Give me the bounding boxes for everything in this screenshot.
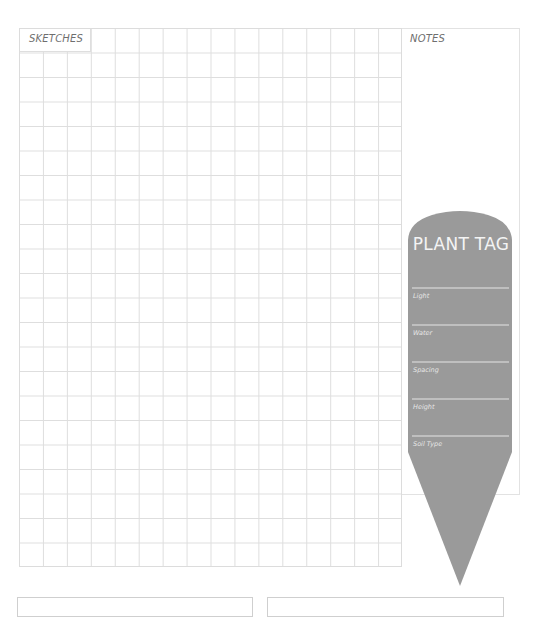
plant-tag-field-light: Light — [413, 292, 429, 300]
plant-tag-field-height: Height — [413, 403, 435, 411]
bottom-left-box — [17, 597, 253, 617]
plant-tag-field-water: Water — [413, 329, 432, 337]
bottom-right-box — [267, 597, 504, 617]
plant-tag-title: PLANT TAG — [409, 234, 513, 254]
notes-box — [402, 28, 520, 495]
sketches-heading: SKETCHES — [29, 33, 83, 44]
sketch-grid — [19, 28, 402, 567]
plant-tag-field-spacing: Spacing — [413, 366, 439, 374]
plant-tag-field-soil-type: Soil Type — [413, 440, 442, 448]
notes-heading: NOTES — [410, 33, 445, 44]
